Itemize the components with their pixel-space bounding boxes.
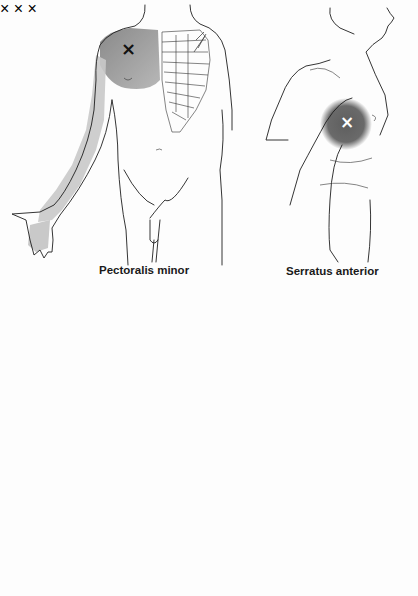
ribcage — [162, 30, 210, 132]
trigger-point-marker: × — [340, 112, 354, 132]
referral-zone-hand — [28, 220, 50, 252]
label-serratus-anterior: Serratus anterior — [286, 265, 379, 277]
trigger-point-marker: × — [121, 38, 136, 59]
panel-pectoralis-minor: × — [12, 5, 232, 265]
anatomy-figure: × × — [0, 0, 418, 596]
panel-serratus-anterior: × — [266, 8, 394, 262]
label-pectoralis-minor: Pectoralis minor — [99, 264, 189, 276]
